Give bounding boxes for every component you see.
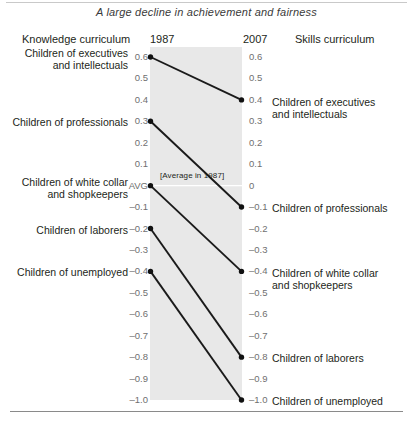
right-label-2: Children of white collarand shopkeepers — [272, 267, 407, 291]
header-year-1987: 1987 — [150, 33, 174, 45]
left-tick-2: 0.4 — [88, 95, 148, 105]
left-tick-12: –0.6 — [88, 309, 148, 319]
header-year-2007: 2007 — [243, 33, 267, 45]
right-tick-15: –0.9 — [249, 374, 289, 384]
average-annotation: [Average in 1987] — [160, 171, 224, 180]
left-label-1: Children of professionals — [0, 116, 128, 128]
left-label-4: Children of unemployed — [0, 266, 128, 278]
right-tick-6: 0 — [249, 181, 289, 191]
right-tick-8: –0.2 — [249, 224, 289, 234]
left-tick-15: –0.9 — [88, 374, 148, 384]
left-tick-16: –1.0 — [88, 395, 148, 405]
header-skills-curriculum: Skills curriculum — [295, 33, 374, 45]
left-tick-11: –0.5 — [88, 288, 148, 298]
left-tick-7: –0.1 — [88, 202, 148, 212]
bottom-divider — [10, 411, 403, 412]
left-tick-13: –0.7 — [88, 331, 148, 341]
left-label-3: Children of laborers — [0, 224, 128, 236]
right-tick-4: 0.2 — [249, 138, 289, 148]
left-tick-14: –0.8 — [88, 352, 148, 362]
left-tick-5: 0.1 — [88, 159, 148, 169]
right-tick-13: –0.7 — [249, 331, 289, 341]
right-label-3: Children of laborers — [272, 352, 407, 364]
right-tick-9: –0.3 — [249, 245, 289, 255]
right-label-4: Children of unemployed — [272, 395, 407, 407]
right-tick-1: 0.5 — [249, 73, 289, 83]
figure-frame: A large decline in achievement and fairn… — [0, 0, 413, 424]
header-knowledge-curriculum: Knowledge curriculum — [22, 33, 130, 45]
right-tick-0: 0.6 — [249, 52, 289, 62]
right-label-0: Children of executivesand intellectuals — [272, 96, 407, 120]
figure-title: A large decline in achievement and fairn… — [0, 6, 413, 18]
left-label-2: Children of white collarand shopkeepers — [0, 176, 128, 200]
left-tick-4: 0.2 — [88, 138, 148, 148]
left-tick-9: –0.3 — [88, 245, 148, 255]
right-tick-5: 0.1 — [249, 159, 289, 169]
right-tick-12: –0.6 — [249, 309, 289, 319]
top-divider — [6, 2, 407, 3]
left-label-0: Children of executivesand intellectuals — [0, 47, 128, 71]
left-tick-1: 0.5 — [88, 73, 148, 83]
right-label-1: Children of professionals — [272, 202, 407, 214]
plot-band — [150, 47, 242, 400]
